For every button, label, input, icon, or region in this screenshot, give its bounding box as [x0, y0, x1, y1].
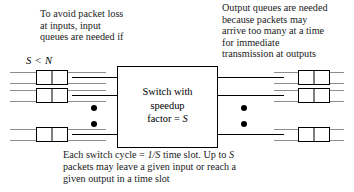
input-queue-2 — [36, 88, 68, 103]
output-ellipsis-dot-2 — [241, 121, 247, 127]
switch-fabric-box: Switch withspeedupfactor = S — [117, 66, 218, 148]
caption-line1-prefix: Each switch cycle = — [63, 149, 147, 160]
input-ellipsis-dot-1 — [91, 105, 97, 111]
switch-fabric-label: Switch withspeedupfactor = S — [118, 85, 217, 126]
switch-label-speedup-symbol: S — [183, 113, 188, 124]
switch-speedup-diagram: To avoid packet loss at inputs, input qu… — [0, 0, 354, 192]
output-link-1 — [217, 77, 284, 78]
note-output-queues: Output queues are needed because packets… — [222, 2, 354, 60]
note-switch-cycle: Each switch cycle = 1/S time slot. Up to… — [63, 149, 303, 184]
caption-line3: given output in a time slot — [63, 173, 170, 184]
caption-line2: packets may leave a given input or reach… — [63, 161, 236, 172]
input-ellipsis-dot-2 — [91, 121, 97, 127]
input-queue-3 — [36, 127, 68, 142]
output-queue-2 — [298, 88, 330, 103]
label-s-less-than-n: S < N — [26, 55, 52, 66]
input-link-1 — [72, 77, 118, 78]
caption-speedup-symbol: S — [229, 149, 234, 160]
input-queue-1 — [36, 70, 68, 85]
output-ellipsis-dot-1 — [241, 105, 247, 111]
switch-label-line1: Switch with — [143, 86, 193, 97]
output-queue-1 — [298, 70, 330, 85]
caption-cycle-fraction: 1/S — [147, 149, 160, 160]
input-link-2 — [72, 95, 118, 96]
output-link-3 — [217, 134, 284, 135]
output-queue-3 — [298, 127, 330, 142]
switch-label-line3-prefix: factor = — [147, 113, 182, 124]
caption-line1-middle: time slot. Up to — [160, 149, 228, 160]
switch-label-line2: speedup — [150, 100, 184, 111]
output-link-2 — [217, 95, 284, 96]
note-input-queues: To avoid packet loss at inputs, input qu… — [40, 8, 170, 43]
input-link-3 — [72, 134, 118, 135]
